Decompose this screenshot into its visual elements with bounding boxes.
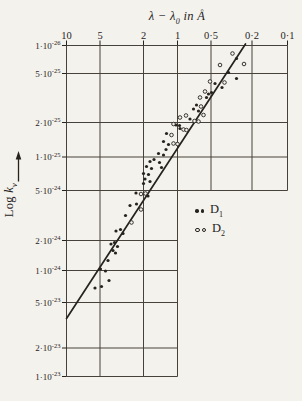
- fit-line: [67, 44, 246, 319]
- data-point-d1: [109, 242, 112, 245]
- data-point-d1: [157, 152, 160, 155]
- x-tick-label: 2: [141, 30, 146, 41]
- x-tick-label: 0·1: [281, 30, 295, 41]
- data-point-d1: [178, 127, 181, 130]
- y-tick-label: 1·10-23: [35, 370, 60, 382]
- data-point-d1: [197, 109, 200, 112]
- data-point-d1: [210, 91, 213, 94]
- data-point-d1: [162, 140, 165, 143]
- x-tick-label: 0·5: [204, 30, 218, 41]
- data-point-d1: [235, 77, 238, 80]
- chart: λ − λ0 in Å Log kν D1 D2 105210·50·20·11…: [0, 0, 302, 401]
- data-point-d1: [227, 71, 230, 74]
- data-point-d2: [139, 192, 143, 196]
- arrow-up-icon: [16, 151, 22, 160]
- data-point-d2: [130, 221, 134, 225]
- plot-canvas: 105210·50·20·11·10-265·10-252·10-251·10-…: [0, 0, 302, 401]
- data-point-d1: [207, 92, 210, 95]
- y-tick-label: 5·10-23: [35, 296, 60, 308]
- data-point-d1: [113, 241, 116, 244]
- data-point-d1: [111, 249, 114, 252]
- data-point-d1: [158, 161, 161, 164]
- data-point-d1: [220, 86, 223, 89]
- data-point-d1: [192, 107, 195, 110]
- y-tick-label: 2·10-25: [35, 116, 60, 128]
- data-point-d2: [139, 208, 143, 212]
- y-tick-label: 5·10-25: [35, 67, 60, 79]
- data-point-d1: [142, 172, 145, 175]
- data-point-d2: [197, 120, 201, 124]
- data-point-d1: [121, 232, 124, 235]
- data-point-d1: [128, 204, 131, 207]
- data-point-d1: [205, 96, 208, 99]
- data-point-d1: [114, 251, 117, 254]
- x-tick-label: 10: [61, 30, 72, 41]
- data-point-d2: [242, 62, 246, 66]
- data-point-d2: [193, 119, 197, 123]
- data-point-d1: [135, 202, 138, 205]
- data-point-d1: [147, 173, 150, 176]
- data-point-d2: [218, 63, 222, 67]
- y-tick-label: 1·10-26: [35, 39, 61, 51]
- y-tick-label: 1·10-25: [35, 151, 60, 163]
- data-point-d2: [202, 113, 206, 117]
- data-point-d1: [148, 180, 151, 183]
- data-point-d2: [184, 114, 188, 118]
- data-point-d2: [144, 192, 148, 196]
- data-point-d2: [203, 90, 207, 94]
- data-point-d1: [106, 259, 109, 262]
- data-point-d1: [160, 166, 163, 169]
- data-point-d1: [119, 228, 122, 231]
- y-tick-label: 5·10-24: [35, 184, 61, 196]
- data-point-d1: [104, 269, 107, 272]
- data-point-d1: [124, 214, 127, 217]
- data-point-d2: [170, 133, 174, 137]
- data-point-d2: [199, 105, 203, 109]
- data-point-d1: [114, 229, 117, 232]
- data-point-d1: [99, 267, 102, 270]
- data-point-d1: [116, 245, 119, 248]
- data-point-d1: [165, 132, 168, 135]
- data-point-d1: [100, 285, 103, 288]
- data-point-d2: [198, 96, 202, 100]
- data-point-d2: [231, 52, 235, 56]
- data-point-d2: [223, 81, 227, 85]
- data-point-d1: [150, 167, 153, 170]
- data-point-d1: [178, 124, 181, 127]
- data-point-d1: [164, 148, 167, 151]
- x-tick-label: 0·2: [245, 30, 259, 41]
- data-point-d1: [143, 177, 146, 180]
- y-tick-label: 1·10-24: [35, 264, 61, 276]
- data-point-d1: [167, 143, 170, 146]
- data-point-d2: [172, 122, 176, 126]
- data-point-d1: [134, 191, 137, 194]
- x-tick-label: 1: [175, 30, 180, 41]
- data-point-d2: [208, 80, 212, 84]
- x-tick-label: 5: [97, 30, 102, 41]
- data-point-d1: [235, 57, 238, 60]
- y-tick-label: 2·10-23: [35, 342, 60, 354]
- data-point-d2: [172, 142, 176, 146]
- data-point-d1: [148, 160, 151, 163]
- data-point-d1: [152, 158, 155, 161]
- data-point-d1: [145, 165, 148, 168]
- data-point-d1: [93, 286, 96, 289]
- data-point-d1: [107, 279, 110, 282]
- y-tick-label: 2·10-24: [35, 234, 61, 246]
- data-point-d1: [142, 182, 145, 185]
- data-point-d1: [162, 153, 165, 156]
- data-point-d1: [188, 117, 191, 120]
- data-point-d1: [213, 82, 216, 85]
- data-point-d2: [178, 116, 182, 120]
- data-point-d1: [195, 103, 198, 106]
- data-point-d2: [176, 142, 180, 146]
- data-point-d2: [185, 128, 189, 132]
